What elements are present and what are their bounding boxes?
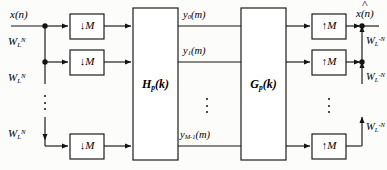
input-node-1 (42, 59, 47, 64)
twiddle-label-1: WLN (8, 72, 26, 84)
sum-node-0 (359, 23, 364, 28)
intermediate-label-y1: y1(m) (183, 46, 206, 57)
middle-ellipsis (205, 98, 208, 113)
intermediate-label-y0: y0(m) (183, 10, 206, 21)
twiddle-out-label-1: WL-N (366, 72, 385, 83)
output-signal-label: x(n) (356, 8, 374, 19)
sum-node-1 (359, 59, 364, 64)
interpolator-label-last: ↑M (312, 140, 346, 151)
input-signal-label: x(n) (10, 9, 28, 20)
right-ellipsis (327, 98, 330, 113)
decimator-label-last: ↓M (70, 140, 104, 151)
twiddle-label-0: WLN (8, 36, 26, 48)
interpolator-label-1: ↑M (312, 56, 346, 67)
input-node-0 (42, 23, 47, 28)
filter-bank-diagram: x(n) WLN WLN WLN ↓M ↓M ↓M Hp(k) Gp(k) y0… (0, 0, 387, 170)
interpolator-label-0: ↑M (312, 20, 346, 31)
synthesis-block-label: Gp(k) (241, 78, 286, 91)
analysis-block-label: Hp(k) (133, 78, 178, 91)
decimator-label-0: ↓M (70, 20, 104, 31)
intermediate-label-ylast: yM-1(m) (180, 130, 210, 141)
twiddle-label-last: WLN (8, 128, 26, 140)
left-ellipsis (43, 95, 46, 110)
twiddle-out-label-last: WL-N (366, 122, 385, 133)
decimator-label-1: ↓M (70, 56, 104, 67)
twiddle-out-label-0: WL-N (366, 36, 385, 47)
